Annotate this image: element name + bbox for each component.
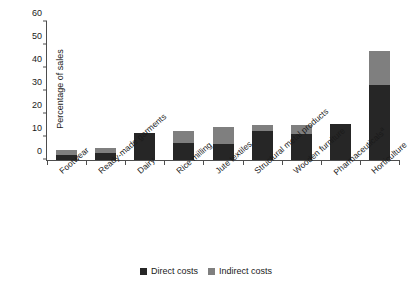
- y-axis-tick-label: 30: [32, 78, 42, 87]
- legend-label: Direct costs: [151, 266, 198, 276]
- x-axis-tick-mark: [282, 160, 283, 165]
- legend-item[interactable]: Direct costs: [140, 266, 198, 276]
- x-axis-tick-mark: [360, 160, 361, 165]
- chart-title: [0, 0, 412, 2]
- y-axis-tick-label: 20: [32, 101, 42, 110]
- bar-segment-direct-costs[interactable]: [369, 85, 390, 160]
- y-axis-tick-label: 0: [37, 147, 42, 156]
- y-axis-tick-label: 40: [32, 55, 42, 64]
- legend-label: Indirect costs: [219, 266, 272, 276]
- plot-area: Percentage of sales 0102030405060 Footwe…: [47, 22, 399, 160]
- y-axis-tick-label: 60: [32, 9, 42, 18]
- x-axis-tick-mark: [203, 160, 204, 165]
- legend-swatch-icon: [140, 268, 147, 275]
- x-axis-tick-mark: [321, 160, 322, 165]
- legend-swatch-icon: [208, 268, 215, 275]
- y-axis-tick-label: 10: [32, 124, 42, 133]
- y-axis-tick-label: 50: [32, 32, 42, 41]
- bar-segment-indirect-costs[interactable]: [173, 131, 194, 142]
- legend-item[interactable]: Indirect costs: [208, 266, 272, 276]
- chart-legend: Direct costsIndirect costs: [0, 266, 412, 276]
- x-axis-tick-mark: [125, 160, 126, 165]
- bar-segment-indirect-costs[interactable]: [369, 51, 390, 86]
- x-axis-tick-mark: [86, 160, 87, 165]
- x-axis-tick-mark: [243, 160, 244, 165]
- x-axis-tick-mark: [164, 160, 165, 165]
- x-axis-tick-mark: [47, 160, 48, 165]
- bar-segment-indirect-costs[interactable]: [213, 127, 234, 144]
- bar-series-container: [47, 22, 399, 160]
- x-axis-tick-mark: [399, 160, 400, 165]
